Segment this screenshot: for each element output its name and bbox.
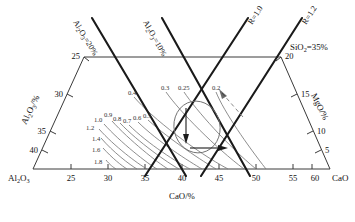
contour-curve-0.6 bbox=[138, 122, 202, 169]
contour-curve-1.0 bbox=[104, 124, 157, 169]
contour-curve-1.6 bbox=[103, 148, 127, 169]
corner-label-cao: CaO bbox=[332, 173, 349, 183]
contour-curves bbox=[99, 92, 266, 169]
contour-label-1.6: 1.6 bbox=[92, 146, 101, 153]
axis-frame bbox=[33, 57, 330, 169]
bold-line-al2o3-20 bbox=[92, 18, 186, 176]
left-tick-label-30: 30 bbox=[55, 89, 64, 99]
contour-label-0.25: 0.25 bbox=[178, 84, 190, 91]
contour-label-0.9: 0.9 bbox=[104, 111, 113, 118]
bottom-title-main: CaO bbox=[169, 191, 185, 201]
left-tick-30 bbox=[67, 94, 73, 97]
right-tick-label-10: 10 bbox=[317, 126, 326, 136]
right-axis-title: MgO/% bbox=[309, 91, 331, 121]
al20-eq: =20% bbox=[82, 36, 100, 58]
bottom-tick-labels: 25 30 35 40 45 50 55 60 bbox=[67, 173, 320, 183]
contour-label-1.4: 1.4 bbox=[92, 135, 101, 142]
contour-label-0.5: 0.5 bbox=[143, 112, 152, 119]
bottom-tick-label-60: 60 bbox=[311, 173, 320, 183]
left-axis-title: Al2O3/% bbox=[19, 93, 43, 126]
al10-eq: =10% bbox=[151, 36, 168, 58]
left-tick-label-35: 35 bbox=[38, 126, 47, 136]
bottom-tick-label-50: 50 bbox=[252, 173, 261, 183]
contour-label-0.4: 0.4 bbox=[128, 89, 137, 96]
contour-label-1.8: 1.8 bbox=[94, 158, 103, 165]
down-arrow-head bbox=[183, 134, 189, 144]
right-tick-5 bbox=[315, 150, 321, 153]
left-tick-25 bbox=[84, 57, 89, 61]
bold-line-label-r12: R=1.2 bbox=[300, 4, 319, 26]
bottom-tick-label-30: 30 bbox=[104, 173, 113, 183]
contour-label-1.0: 1.0 bbox=[94, 116, 103, 123]
right-tick-label-5: 5 bbox=[325, 145, 329, 155]
contour-label-0.7: 0.7 bbox=[123, 117, 132, 124]
corner-o-sub: 3 bbox=[27, 177, 30, 184]
contour-curve-0.9 bbox=[112, 121, 168, 169]
axis-titles: CaO/% Al2O3/% MgO/% bbox=[19, 91, 331, 201]
right-tick-label-15: 15 bbox=[301, 89, 310, 99]
bold-line-r-1-2 bbox=[201, 18, 302, 176]
top-right-corner-value: 20 bbox=[285, 51, 294, 61]
contour-curve-1.4 bbox=[101, 138, 137, 169]
left-tick-label-40: 40 bbox=[30, 145, 39, 155]
right-tick-10 bbox=[307, 131, 313, 134]
left-tick-marks bbox=[42, 57, 89, 153]
contour-label-0.3: 0.3 bbox=[161, 84, 170, 91]
left-title-pct: /% bbox=[28, 93, 42, 107]
bottom-axis-title: CaO/% bbox=[169, 191, 196, 201]
right-arrow-head bbox=[218, 145, 228, 151]
bottom-tick-label-35: 35 bbox=[141, 173, 150, 183]
sio2-si: SiO bbox=[290, 42, 304, 52]
bottom-tick-label-40: 40 bbox=[178, 173, 187, 183]
bottom-tick-label-25: 25 bbox=[67, 173, 76, 183]
ternary-diagram-svg: 25 30 35 40 45 50 55 60 Al2O3 CaO 25 20 … bbox=[0, 0, 355, 222]
contour-label-1.2: 1.2 bbox=[86, 124, 94, 131]
contour-label-0.6: 0.6 bbox=[133, 114, 142, 121]
bold-line-label-al2o3-10: Al2O3=10% bbox=[140, 19, 168, 59]
contour-label-0.8: 0.8 bbox=[113, 115, 122, 122]
left-tick-35 bbox=[50, 131, 56, 134]
axis-left-line bbox=[33, 57, 84, 169]
left-tick-40 bbox=[42, 150, 48, 153]
chart-canvas: 25 30 35 40 45 50 55 60 Al2O3 CaO 25 20 … bbox=[0, 0, 355, 222]
bold-line-label-r10: R=1.0 bbox=[246, 4, 265, 26]
sio2-eq: =35% bbox=[307, 42, 329, 52]
top-left-corner-value: 25 bbox=[72, 51, 81, 61]
bottom-tick-label-55: 55 bbox=[289, 173, 298, 183]
bottom-title-suffix: /% bbox=[185, 191, 195, 201]
corner-label-al2o3: Al2O3 bbox=[8, 173, 30, 184]
right-tick-15 bbox=[291, 94, 297, 97]
sio2-annotation: SiO2=35% bbox=[290, 42, 329, 53]
contour-label-0.2: 0.2 bbox=[212, 84, 220, 91]
bottom-tick-label-45: 45 bbox=[215, 173, 224, 183]
bottom-tick-marks bbox=[71, 164, 312, 169]
